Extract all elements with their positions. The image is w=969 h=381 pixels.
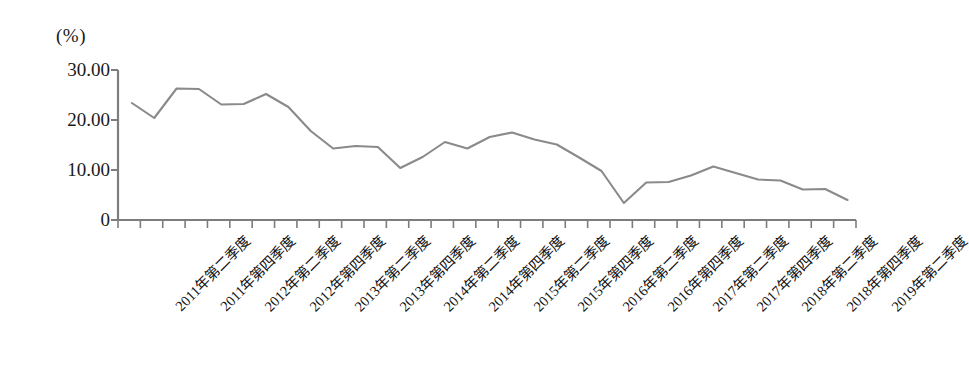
x-axis-tick-label: 2019年第二季度 xyxy=(888,234,968,314)
data-series-line xyxy=(132,89,848,204)
x-axis-ticks xyxy=(118,220,856,228)
axes xyxy=(118,70,856,220)
